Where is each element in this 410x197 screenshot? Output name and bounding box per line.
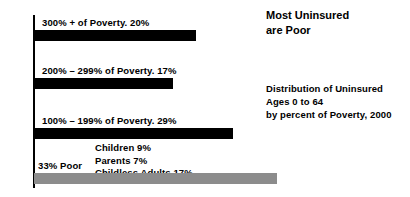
chart-title-line-1: Most Uninsured [266, 8, 349, 23]
bar-33-percent-poor [34, 173, 277, 184]
chart-subtitle-line-1: Distribution of Uninsured [266, 82, 392, 95]
bar-label-300-plus: 300% + of Poverty. 20% [42, 17, 149, 28]
bar-200-299-of-poverty [34, 78, 173, 89]
subgroup-parents: Parents 7% [95, 155, 193, 168]
bar-label-200-299: 200% – 299% of Poverty. 17% [42, 65, 177, 76]
subgroup-children: Children 9% [95, 142, 193, 155]
chart-title: Most Uninsured are Poor [266, 8, 349, 37]
bar-100-199-of-poverty [34, 128, 233, 139]
bar-300-plus-of-poverty [34, 30, 196, 41]
plot-area: 300% + of Poverty. 20% 200% – 299% of Po… [0, 0, 290, 197]
bar-label-100-199: 100% – 199% of Poverty. 29% [42, 115, 177, 126]
chart-title-line-2: are Poor [266, 23, 349, 38]
bar-label-33-percent-poor: 33% Poor [38, 160, 82, 171]
chart-container: 300% + of Poverty. 20% 200% – 299% of Po… [0, 0, 410, 197]
chart-subtitle-line-3: by percent of Poverty, 2000 [266, 108, 392, 121]
chart-subtitle: Distribution of Uninsured Ages 0 to 64 b… [266, 82, 392, 121]
chart-subtitle-line-2: Ages 0 to 64 [266, 95, 392, 108]
